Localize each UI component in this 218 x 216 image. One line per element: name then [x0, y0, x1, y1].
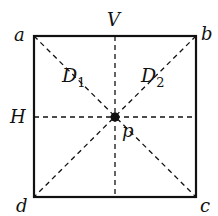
center-label-p: p [122, 120, 134, 141]
square-diagram: a b c d V H D1 D2 p [0, 0, 218, 216]
axis-label-d1: D1 [61, 64, 86, 90]
vertex-label-c: c [200, 195, 210, 216]
axis-label-d2: D2 [140, 64, 165, 90]
axis-label-v: V [107, 9, 122, 30]
vertex-label-a: a [14, 24, 25, 45]
vertex-label-b: b [201, 23, 213, 44]
center-point [111, 113, 120, 122]
vertex-label-d: d [16, 195, 28, 216]
axis-label-h: H [9, 106, 26, 127]
